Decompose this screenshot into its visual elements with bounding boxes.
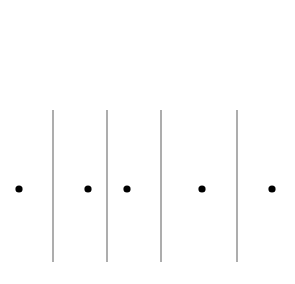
dot-2	[84, 185, 91, 192]
dot-1	[15, 185, 22, 192]
dots-and-lines-diagram	[0, 0, 295, 284]
vertical-divider-lines	[53, 110, 237, 262]
dot-3	[123, 185, 130, 192]
dot-4	[198, 185, 205, 192]
dot-5	[268, 185, 275, 192]
